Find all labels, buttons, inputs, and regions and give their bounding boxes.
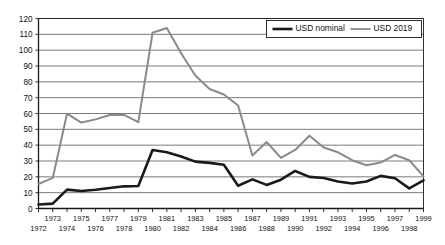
x-axis-tick-label: 1992: [315, 224, 331, 233]
y-axis-tick-labels: 0102030405060708090100110120: [19, 15, 33, 214]
x-axis-tick-label: 1981: [159, 214, 175, 223]
x-axis-tick-label: 1977: [102, 214, 118, 223]
data-series-lines: [39, 28, 424, 205]
y-axis-tick-label: 40: [23, 141, 33, 150]
series-line-usd-nominal: [39, 150, 424, 204]
y-axis-tick-label: 50: [23, 125, 33, 134]
legend-label: USD nominal: [296, 23, 345, 33]
y-axis-tick-label: 80: [23, 78, 33, 87]
x-axis-tick-label: 1985: [216, 214, 232, 223]
x-axis-tick-labels-upper: 1973197519771979198119831985198719891991…: [45, 214, 432, 223]
x-axis-tick-label: 1978: [116, 224, 132, 233]
legend-label: USD 2019: [374, 23, 413, 33]
y-axis-tick-label: 20: [23, 173, 33, 182]
x-axis-tick-label: 1975: [73, 214, 89, 223]
x-axis-tick-label: 1982: [173, 224, 189, 233]
y-axis-tick-label: 100: [19, 46, 33, 55]
x-axis-tick-label: 1988: [258, 224, 274, 233]
x-axis-tick-label: 1979: [130, 214, 146, 223]
x-axis-tick-label: 1974: [59, 224, 75, 233]
line-chart: 0102030405060708090100110120 19731975197…: [0, 0, 445, 245]
x-axis-tick-label: 1989: [273, 214, 289, 223]
x-axis-tick-label: 1972: [30, 224, 46, 233]
x-axis-tick-label: 1983: [187, 214, 203, 223]
chart-canvas: 0102030405060708090100110120 19731975197…: [0, 0, 445, 245]
y-axis-tick-label: 120: [19, 15, 33, 24]
y-axis-tick-label: 30: [23, 157, 33, 166]
y-axis-tick-label: 0: [28, 205, 33, 214]
y-axis-tick-label: 110: [19, 30, 32, 39]
x-axis-tick-labels-lower: 1972197419761978198019821984198619881990…: [30, 224, 417, 233]
x-axis-tick-label: 1999: [415, 214, 431, 223]
x-axis-tick-label: 1973: [45, 214, 61, 223]
x-axis-tick-label: 1984: [201, 224, 217, 233]
x-axis-tick-label: 1998: [401, 224, 417, 233]
y-axis-tick-label: 90: [23, 62, 33, 71]
x-axis-tick-label: 1997: [387, 214, 403, 223]
x-axis-tick-label: 1994: [344, 224, 360, 233]
x-axis-tick-label: 1995: [358, 214, 374, 223]
y-axis-tick-label: 70: [23, 94, 33, 103]
x-axis-tick-label: 1990: [287, 224, 303, 233]
x-axis-tick-label: 1991: [301, 214, 317, 223]
grid-lines: [39, 19, 424, 209]
x-axis-tick-label: 1976: [87, 224, 103, 233]
y-axis-tick-label: 60: [23, 110, 33, 119]
x-axis-tick-label: 1986: [230, 224, 246, 233]
x-axis-tick-label: 1996: [372, 224, 388, 233]
x-axis-tick-label: 1980: [144, 224, 160, 233]
x-axis-tick-label: 1993: [330, 214, 346, 223]
chart-legend: USD nominalUSD 2019: [267, 21, 422, 38]
y-axis-tick-label: 10: [23, 189, 33, 198]
x-axis-tick-label: 1987: [244, 214, 260, 223]
